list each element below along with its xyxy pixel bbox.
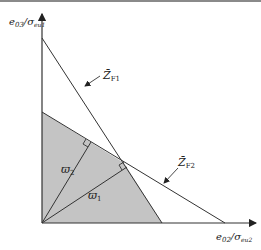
z-f1-pointer-arrow xyxy=(85,76,100,86)
z-f2-pointer-arrow xyxy=(164,168,178,183)
y-axis-label: e03/σeu1 xyxy=(9,16,45,29)
z-f1-label: Z̄F1 xyxy=(102,69,120,83)
x-axis-label: e02/σeu2 xyxy=(216,231,252,244)
z-f2-label: Z̄F2 xyxy=(177,156,195,170)
yield-surface-diagram: e03/σeu1 e02/σeu2 Z̄F1 Z̄F2 ϖ2 ϖ1 xyxy=(0,0,261,250)
feasible-region xyxy=(42,112,162,223)
